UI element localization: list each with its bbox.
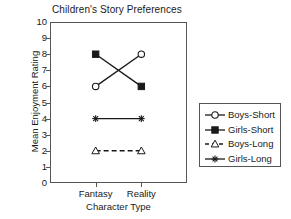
legend-label: Boys-Short <box>228 109 275 121</box>
y-tick-label: 7 <box>25 65 47 75</box>
x-tick-mark <box>96 183 97 187</box>
legend-item-girls-long[interactable]: Girls-Long <box>204 152 280 166</box>
y-tick-label: 10 <box>25 17 47 27</box>
y-tick-mark <box>46 38 50 39</box>
y-tick-mark <box>46 86 50 87</box>
y-tick-mark <box>46 54 50 55</box>
y-tick-mark <box>46 135 50 136</box>
legend-marker-icon <box>204 152 226 166</box>
x-tick-mark <box>141 183 142 187</box>
legend-marker <box>212 112 218 118</box>
y-tick-label: 5 <box>25 98 47 108</box>
y-tick-label: 9 <box>25 33 47 43</box>
x-tick-label: Reality <box>111 188 171 199</box>
figure-canvas: Children's Story Preferences Mean Enjoym… <box>0 0 291 219</box>
legend: Boys-ShortGirls-ShortBoys-LongGirls-Long <box>199 103 281 167</box>
y-tick-mark <box>46 151 50 152</box>
y-tick-label: 1 <box>25 162 47 172</box>
y-tick-label: 3 <box>25 130 47 140</box>
legend-marker <box>212 126 218 132</box>
y-tick-mark <box>46 119 50 120</box>
legend-marker-icon <box>204 137 226 151</box>
x-axis-title: Character Type <box>50 201 187 212</box>
legend-label: Boys-Long <box>228 138 273 150</box>
y-tick-label: 6 <box>25 81 47 91</box>
y-tick-label: 2 <box>25 146 47 156</box>
plot-area <box>50 22 187 183</box>
legend-label: Girls-Short <box>228 124 273 136</box>
legend-marker <box>212 155 219 162</box>
legend-item-girls-short[interactable]: Girls-Short <box>204 123 280 137</box>
legend-item-boys-long[interactable]: Boys-Long <box>204 137 280 151</box>
y-tick-label: 0 <box>25 178 47 188</box>
legend-item-boys-short[interactable]: Boys-Short <box>204 108 280 122</box>
chart-title: Children's Story Preferences <box>52 4 182 16</box>
legend-marker-icon <box>204 123 226 137</box>
y-tick-mark <box>46 167 50 168</box>
y-tick-label: 8 <box>25 49 47 59</box>
y-tick-mark <box>46 70 50 71</box>
legend-marker-icon <box>204 108 226 122</box>
legend-label: Girls-Long <box>228 153 272 165</box>
y-tick-label: 4 <box>25 114 47 124</box>
y-tick-mark <box>46 103 50 104</box>
